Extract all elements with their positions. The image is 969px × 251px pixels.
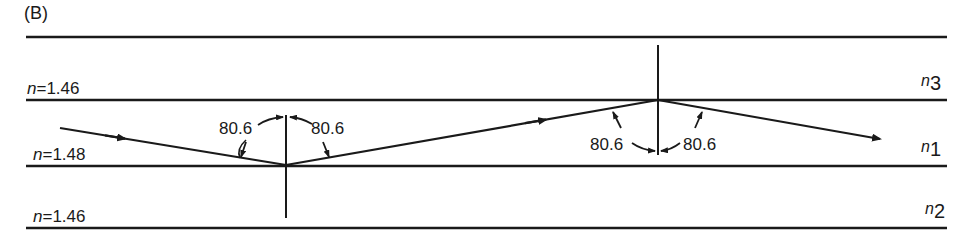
subscript: 3: [930, 72, 941, 94]
angle-arrow-bottom-left-top: [258, 117, 283, 125]
index-label-top: n=1.46: [27, 80, 79, 97]
n-symbol: n: [925, 200, 934, 217]
n-symbol: n: [921, 138, 930, 155]
panel-label: (B): [24, 4, 48, 22]
angle-label-top-right: 80.6: [683, 136, 716, 153]
n-symbol: n: [921, 72, 930, 89]
angle-label-bottom-left: 80.6: [219, 120, 252, 137]
ray-direction-arrow-2: [525, 120, 546, 124]
layer-symbol-n1: n1: [921, 134, 941, 157]
index-label-core: n=1.48: [33, 146, 85, 163]
angle-label-bottom-right: 80.6: [311, 120, 344, 137]
angle-arrow-bottom-right-top: [290, 117, 312, 124]
subscript: 2: [934, 200, 945, 222]
angle-arrow-top-left-normal: [632, 143, 655, 151]
angle-label-top-left: 80.6: [590, 136, 623, 153]
layer-symbol-n2: n2: [925, 196, 945, 219]
index-label-bottom: n=1.46: [33, 208, 85, 225]
index-value: =1.46: [42, 207, 85, 226]
index-value: =1.46: [36, 79, 79, 98]
angle-arrow-bottom-right-ray: [323, 142, 329, 157]
angle-arrow-top-right-ray: [695, 112, 702, 128]
ray-incident: [60, 128, 286, 165]
angle-arrow-top-right-normal: [661, 143, 680, 151]
subscript: 1: [930, 138, 941, 160]
angle-arrow-top-left-ray: [613, 112, 621, 128]
index-value: =1.48: [42, 145, 85, 164]
layer-symbol-n3: n3: [921, 68, 941, 91]
waveguide-diagram: [0, 0, 969, 251]
ray-reflected-2: [658, 100, 880, 139]
